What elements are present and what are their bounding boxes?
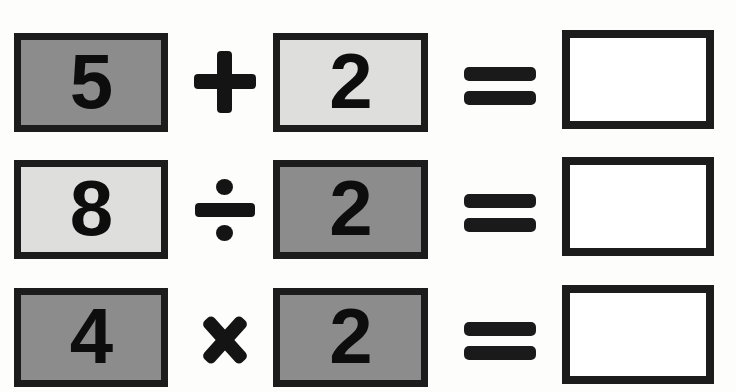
answer-box[interactable] — [562, 157, 714, 256]
operand-a-digit: 8 — [70, 169, 112, 247]
divide-bottom-dot — [216, 225, 233, 241]
equation-row: 4 2 — [0, 283, 736, 391]
equals-top-bar — [464, 67, 536, 81]
operand-b-digit: 2 — [329, 297, 371, 375]
plus-icon — [186, 33, 266, 132]
multiply-icon — [186, 288, 266, 387]
divide-icon — [186, 160, 266, 259]
divide-bar — [195, 203, 255, 217]
operand-a-digit: 4 — [70, 297, 112, 375]
equation-row: 8 2 — [0, 155, 736, 263]
equals-bottom-bar — [464, 346, 536, 360]
operand-a-box: 4 — [14, 288, 168, 387]
equals-icon — [458, 33, 548, 132]
equals-icon — [458, 288, 548, 387]
divide-top-dot — [216, 179, 233, 195]
operand-a-box: 8 — [14, 160, 168, 259]
arithmetic-worksheet: 5 2 8 — [0, 0, 736, 392]
equation-row: 5 2 — [0, 28, 736, 136]
operand-b-digit: 2 — [329, 42, 371, 120]
equals-top-bar — [464, 194, 536, 208]
equals-bottom-bar — [464, 218, 536, 232]
equals-icon — [458, 160, 548, 259]
operand-b-digit: 2 — [329, 169, 371, 247]
plus-vertical-bar — [217, 51, 232, 113]
equals-top-bar — [464, 322, 536, 336]
answer-box[interactable] — [562, 30, 714, 129]
answer-box[interactable] — [562, 285, 714, 384]
operand-b-box: 2 — [273, 288, 428, 387]
operand-b-box: 2 — [273, 33, 428, 132]
operand-a-box: 5 — [14, 33, 168, 132]
operand-a-digit: 5 — [70, 42, 112, 120]
equals-bottom-bar — [464, 91, 536, 105]
operand-b-box: 2 — [273, 160, 428, 259]
